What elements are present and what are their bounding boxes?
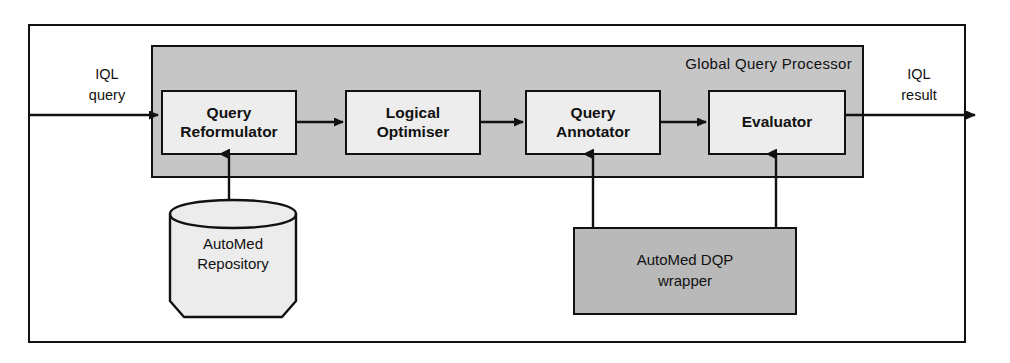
stage-evaluator[interactable]: Evaluator	[708, 90, 846, 155]
cylinder-shape-icon	[168, 198, 298, 319]
global-query-processor-label: Global Query Processor	[685, 55, 852, 72]
output-port-label: IQLresult	[884, 64, 954, 106]
automed-repository-cylinder[interactable]: AutoMedRepository	[168, 198, 298, 319]
automed-dqp-wrapper-box[interactable]: AutoMed DQPwrapper	[573, 227, 797, 315]
stage-logical-optimiser[interactable]: LogicalOptimiser	[345, 90, 481, 155]
stage-query-annotator[interactable]: QueryAnnotator	[525, 90, 661, 155]
architecture-diagram: Global Query Processor QueryReformulator…	[0, 0, 1010, 363]
stage-query-annotator-label: QueryAnnotator	[553, 104, 633, 142]
stage-query-reformulator[interactable]: QueryReformulator	[161, 90, 297, 155]
stage-logical-optimiser-label: LogicalOptimiser	[374, 104, 452, 142]
stage-query-reformulator-label: QueryReformulator	[177, 104, 280, 142]
automed-dqp-wrapper-label: AutoMed DQPwrapper	[637, 250, 734, 291]
input-port-label: IQLquery	[72, 64, 142, 106]
stage-evaluator-label: Evaluator	[739, 113, 816, 132]
